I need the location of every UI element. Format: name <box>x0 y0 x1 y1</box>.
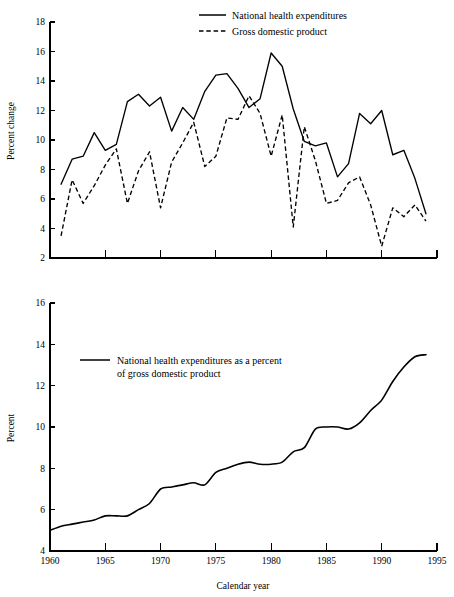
legend-label-nhe-share-line1: National health expenditures as a percen… <box>117 355 282 366</box>
top-panel-y-tick-label: 4 <box>40 224 45 234</box>
bottom-panel-y-tick-label: 16 <box>36 298 46 308</box>
bottom-panel-legend: National health expenditures as a percen… <box>80 355 282 379</box>
bottom-panel-x-tick-label: 1970 <box>151 556 170 566</box>
legend-label-national-health-expenditures: National health expenditures <box>232 10 347 21</box>
top-panel-y-tick-label: 8 <box>40 165 45 175</box>
top-panel-axes <box>50 22 437 258</box>
bottom-panel: 46810121416 1960196519701975198019851990… <box>6 298 447 591</box>
bottom-panel-y-tick-label: 8 <box>40 464 45 474</box>
bottom-panel-y-tick-label: 12 <box>36 381 46 391</box>
top-panel-y-tick-label: 16 <box>36 47 46 57</box>
top-panel-y-tick-label: 2 <box>40 253 45 263</box>
top-panel-y-tick-label: 18 <box>36 17 46 27</box>
bottom-panel-series-line <box>50 355 426 531</box>
legend-label-nhe-share-line2: of gross domestic product <box>117 368 221 379</box>
top-panel-series <box>61 53 426 246</box>
top-panel-spine <box>50 22 437 258</box>
bottom-panel-series <box>50 355 426 531</box>
bottom-panel-x-tick-label: 1960 <box>41 556 60 566</box>
top-panel-y-tick-label: 10 <box>36 135 46 145</box>
bottom-panel-x-tick-label: 1965 <box>96 556 115 566</box>
bottom-panel-spine <box>50 303 437 551</box>
bottom-panel-x-tick-label: 1980 <box>262 556 281 566</box>
top-panel-y-tick-labels: 24681012141618 <box>36 17 46 263</box>
bottom-panel-x-tick-label: 1975 <box>206 556 225 566</box>
legend-label-gross-domestic-product: Gross domestic product <box>232 26 327 37</box>
chart-figure: 24681012141618 Percent change National h… <box>0 0 454 597</box>
bottom-panel-x-tick-label: 1990 <box>372 556 391 566</box>
top-panel-legend: National health expenditures Gross domes… <box>199 10 347 37</box>
bottom-panel-y-tick-labels: 46810121416 <box>36 298 46 556</box>
top-panel-y-axis-title: Percent change <box>6 102 16 160</box>
bottom-panel-y-tick-label: 14 <box>36 340 46 350</box>
bottom-panel-x-tick-labels: 19601965197019751980198519901995 <box>41 556 447 566</box>
bottom-panel-x-axis-title: Calendar year <box>216 581 270 591</box>
bottom-panel-axes <box>50 303 437 551</box>
top-panel-series-line <box>61 96 426 246</box>
bottom-panel-y-axis-title: Percent <box>6 413 16 442</box>
chart-canvas: 24681012141618 Percent change National h… <box>0 0 454 597</box>
top-panel-y-tick-label: 6 <box>40 194 45 204</box>
bottom-panel-y-tick-label: 10 <box>36 422 46 432</box>
bottom-panel-y-tick-label: 6 <box>40 505 45 515</box>
top-panel-y-tick-label: 12 <box>36 106 46 116</box>
top-panel-y-tick-label: 14 <box>36 76 46 86</box>
top-panel: 24681012141618 Percent change National h… <box>6 10 437 264</box>
bottom-panel-x-tick-label: 1995 <box>428 556 447 566</box>
bottom-panel-y-tick-label: 4 <box>40 546 45 556</box>
top-panel-series-line <box>61 53 426 214</box>
bottom-panel-x-tick-label: 1985 <box>317 556 336 566</box>
